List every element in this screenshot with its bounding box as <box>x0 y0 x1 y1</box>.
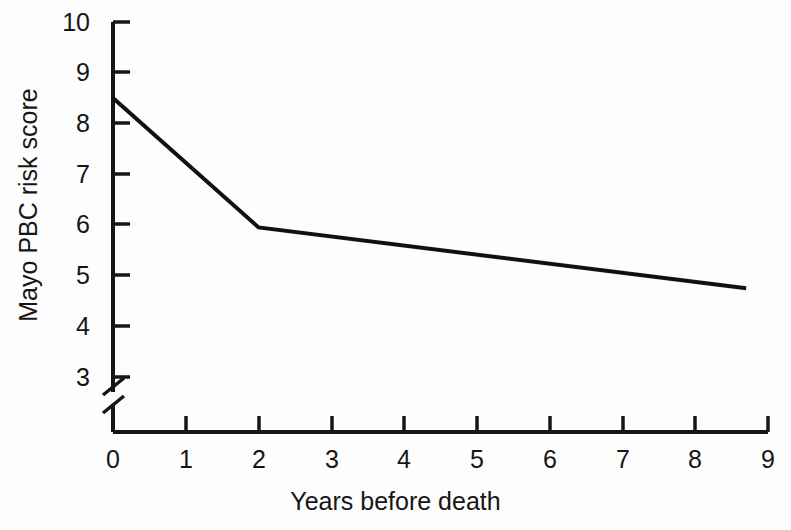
chart-figure: 10 9 8 7 6 5 4 3 0 1 2 3 4 5 6 7 8 9 Yea… <box>0 0 791 530</box>
x-tick-label-9: 9 <box>761 447 775 472</box>
x-tick-label-7: 7 <box>616 447 630 472</box>
y-tick-label-9: 9 <box>52 60 90 85</box>
x-tick-label-5: 5 <box>470 447 484 472</box>
y-tick-label-5: 5 <box>52 263 90 288</box>
y-tick-label-10: 10 <box>52 10 90 35</box>
y-axis-title: Mayo PBC risk score <box>16 25 56 385</box>
y-tick-label-6: 6 <box>52 212 90 237</box>
x-axis-ticks <box>113 416 768 432</box>
y-axis-ticks <box>113 22 130 377</box>
x-tick-label-4: 4 <box>397 447 411 472</box>
x-tick-label-0: 0 <box>106 447 120 472</box>
data-line-mayo-pbc-risk-score <box>113 98 746 288</box>
y-tick-label-8: 8 <box>52 111 90 136</box>
x-tick-label-8: 8 <box>688 447 702 472</box>
x-axis-title: Years before death <box>0 489 791 514</box>
x-tick-label-3: 3 <box>325 447 339 472</box>
y-tick-label-4: 4 <box>52 314 90 339</box>
y-tick-label-7: 7 <box>52 162 90 187</box>
x-tick-label-6: 6 <box>543 447 557 472</box>
x-tick-label-2: 2 <box>252 447 266 472</box>
x-tick-label-1: 1 <box>179 447 193 472</box>
y-tick-label-3: 3 <box>52 365 90 390</box>
